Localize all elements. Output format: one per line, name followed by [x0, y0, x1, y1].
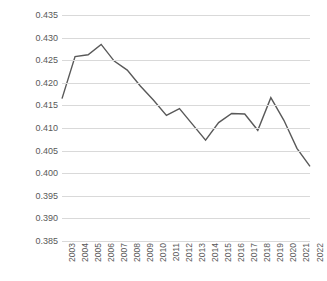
x-axis-tick-label: 2017 — [250, 243, 259, 262]
y-axis-tick-label: 0.405 — [14, 146, 58, 155]
x-axis-tick-label: 2003 — [68, 243, 77, 262]
x-axis-tick-label: 2011 — [172, 243, 181, 261]
gridline — [62, 218, 310, 219]
gridline — [62, 151, 310, 152]
gridline — [62, 173, 310, 174]
x-axis-tick-label: 2020 — [289, 243, 298, 262]
gridline — [62, 38, 310, 39]
gridline — [62, 241, 310, 242]
x-axis-tick-label: 2022 — [316, 243, 325, 262]
y-axis-tick-label: 0.400 — [14, 169, 58, 178]
gridline — [62, 105, 310, 106]
y-axis: 0.4350.4300.4250.4200.4150.4100.4050.400… — [14, 0, 58, 281]
gridline — [62, 128, 310, 129]
x-axis-tick-label: 2004 — [81, 243, 90, 262]
gridline — [62, 15, 310, 16]
x-axis-tick-label: 2015 — [224, 243, 233, 262]
x-axis-tick-label: 2009 — [146, 243, 155, 262]
x-axis-tick-label: 2019 — [276, 243, 285, 262]
y-axis-tick-label: 0.410 — [14, 124, 58, 133]
x-axis-tick-label: 2021 — [302, 243, 311, 262]
y-axis-tick-label: 0.395 — [14, 191, 58, 200]
x-axis-tick-label: 2007 — [120, 243, 129, 262]
gridline — [62, 196, 310, 197]
x-axis-tick-label: 2013 — [198, 243, 207, 262]
y-axis-tick-label: 0.420 — [14, 78, 58, 87]
y-axis-tick-label: 0.415 — [14, 101, 58, 110]
y-axis-tick-label: 0.385 — [14, 237, 58, 246]
x-axis-tick-label: 2010 — [159, 243, 168, 262]
plot-area — [62, 15, 310, 241]
x-axis-tick-label: 2006 — [107, 243, 116, 262]
y-axis-tick-label: 0.430 — [14, 33, 58, 42]
y-axis-tick-label: 0.435 — [14, 11, 58, 20]
x-axis-tick-label: 2014 — [211, 243, 220, 262]
x-axis-tick-label: 2018 — [263, 243, 272, 262]
x-axis-tick-label: 2016 — [237, 243, 246, 262]
y-axis-tick-label: 0.425 — [14, 56, 58, 65]
line-chart: 0.4350.4300.4250.4200.4150.4100.4050.400… — [0, 0, 327, 281]
gridline — [62, 60, 310, 61]
x-axis-tick-label: 2008 — [133, 243, 142, 262]
x-axis-tick-label: 2005 — [94, 243, 103, 262]
gridline — [62, 83, 310, 84]
y-axis-tick-label: 0.390 — [14, 214, 58, 223]
x-axis-tick-label: 2012 — [185, 243, 194, 262]
x-axis: 2003200420052006200720082009201020112012… — [62, 243, 310, 281]
